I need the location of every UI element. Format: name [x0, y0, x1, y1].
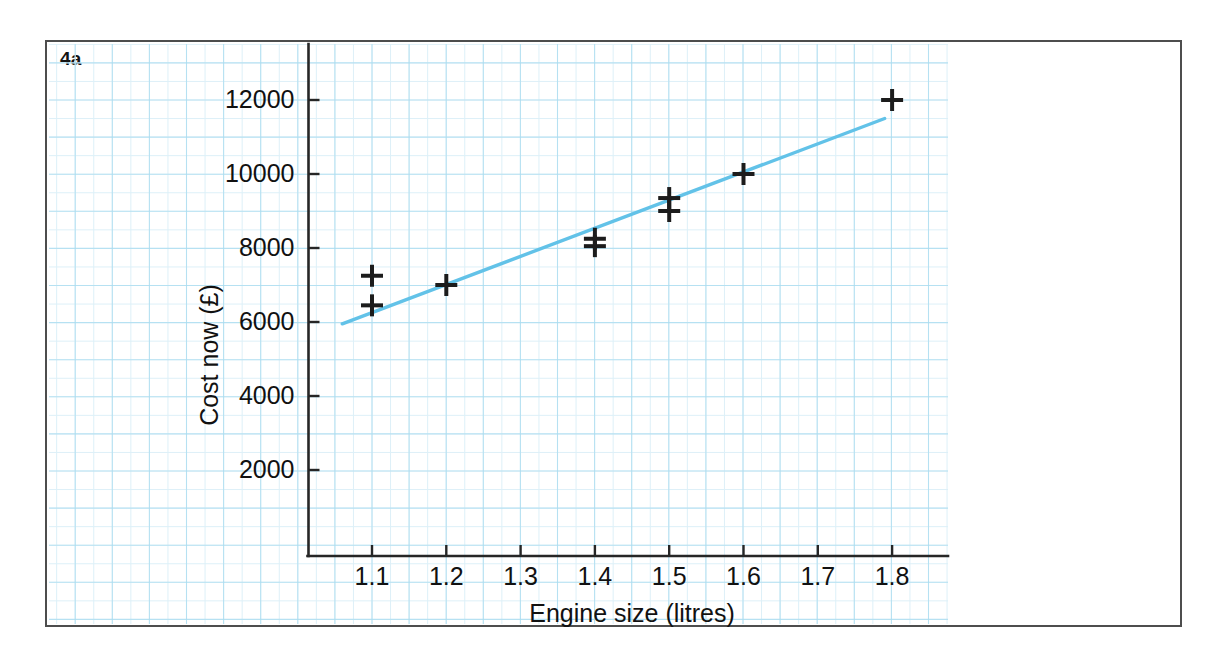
x-tick-label: 1.1	[355, 562, 390, 590]
y-tick-label: 4000	[239, 381, 295, 409]
x-tick-label: 1.7	[800, 562, 835, 590]
data-point-plus-marker	[361, 265, 383, 287]
x-tick-label: 1.5	[652, 562, 687, 590]
figure-canvas: 4a 200040006000800010000120001.11.21.31.…	[0, 0, 1218, 662]
y-tick-label: 6000	[239, 307, 295, 335]
data-point-plus-marker	[733, 163, 755, 185]
plot-area: 200040006000800010000120001.11.21.31.41.…	[0, 0, 1218, 662]
x-axis-title: Engine size (litres)	[529, 599, 735, 627]
y-tick-label: 8000	[239, 233, 295, 261]
data-point-plus-marker	[361, 294, 383, 316]
y-axis-title: Cost now (£)	[195, 284, 223, 426]
data-point-plus-marker	[881, 89, 903, 111]
x-tick-label: 1.3	[503, 562, 538, 590]
x-tick-label: 1.4	[578, 562, 613, 590]
y-tick-label: 10000	[225, 159, 295, 187]
y-tick-label: 12000	[225, 85, 295, 113]
y-tick-label: 2000	[239, 455, 295, 483]
y-axis-ticks: 20004000600080001000012000	[225, 85, 320, 483]
scatter-chart: 200040006000800010000120001.11.21.31.41.…	[0, 0, 1218, 662]
x-tick-label: 1.6	[726, 562, 761, 590]
x-tick-label: 1.2	[429, 562, 464, 590]
x-tick-label: 1.8	[875, 562, 910, 590]
data-point-plus-marker	[435, 274, 457, 296]
